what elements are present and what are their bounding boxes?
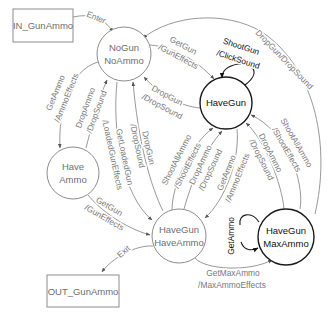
node-nogun-noammo: NoGun NoAmmo xyxy=(97,27,151,81)
havegun-maxammo-line1: HaveGun xyxy=(266,225,306,236)
node-havegun: HaveGun xyxy=(200,77,252,129)
edge-hgha-to-maxammo xyxy=(195,258,272,268)
label-maxammo-self-event: GetAmmo xyxy=(226,217,236,255)
havegun-haveammo-line2: HaveAmmo xyxy=(154,237,204,248)
node-havegun-haveammo: HaveGun HaveAmmo xyxy=(152,209,206,263)
label-maxammo-to-nogun: DropGun/DropSound xyxy=(254,28,316,92)
label-hgha-to-maxammo-action: /MaxAmmoEffects xyxy=(198,280,266,290)
havegun-label: HaveGun xyxy=(206,97,246,108)
in-box-label: IN_GunAmmo xyxy=(13,20,73,31)
node-in-gunammo: IN_GunAmmo xyxy=(13,9,73,42)
nogun-noammo-line1: NoGun xyxy=(109,42,139,53)
havegun-haveammo-line1: HaveGun xyxy=(159,224,199,235)
have-ammo-line1: Have xyxy=(62,161,84,172)
edge-maxammo-self-loop-top xyxy=(240,215,259,225)
node-havegun-maxammo: HaveGun MaxAmmo xyxy=(258,209,314,265)
label-hgha-to-maxammo-event: GetMaxAmmo xyxy=(206,268,260,278)
node-out-gunammo: OUT_GunAmmo xyxy=(47,275,119,307)
nogun-noammo-line2: NoAmmo xyxy=(104,55,144,66)
node-have-ammo: Have Ammo xyxy=(47,147,99,199)
have-ammo-line2: Ammo xyxy=(59,174,86,185)
label-enter: Enter xyxy=(85,9,108,26)
edge-maxammo-self-loop-bottom xyxy=(241,242,258,250)
state-diagram: Enter GetAmmo /AmmoEffects DropAmmo /Dro… xyxy=(0,0,330,314)
out-box-label: OUT_GunAmmo xyxy=(48,286,119,297)
havegun-maxammo-line2: MaxAmmo xyxy=(263,238,308,249)
